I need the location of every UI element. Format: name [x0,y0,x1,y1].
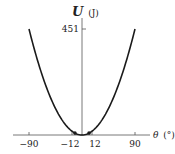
x-tick-label: 12 [89,139,100,149]
y-axis-symbol: U [72,4,84,19]
x-tick-label: −12 [61,139,80,149]
y-axis-label: U (J) [72,4,99,19]
curve-marker [87,131,91,135]
x-tick-label: −90 [20,139,39,149]
x-axis-symbol: θ [153,130,159,140]
y-tick-label: 451 [62,24,79,34]
y-axis-unit: (J) [88,8,99,18]
energy-chart: −90 −12 12 90 451 U (J) θ (°) [0,0,175,154]
x-axis-label: θ (°) [153,130,175,140]
curve-marker [73,131,77,135]
x-axis-unit: (°) [163,130,175,140]
x-tick-label: 90 [129,139,141,149]
